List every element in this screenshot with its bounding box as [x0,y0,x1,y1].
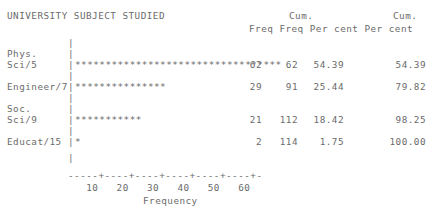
frequency-histogram-printout: UNIVERSITY SUBJECT STUDIED Cum. Cum. Fre… [0,0,435,210]
table-row-label-line1: Soc. | [0,103,435,114]
row-label-phys-sci: Sci/5 [7,59,37,70]
cell-per-cent: 18.42 [306,114,344,125]
row-label-engineer: Engineer/7 [7,81,68,92]
cell-cum-freq: 62 [272,59,298,70]
cell-per-cent: 1.75 [306,136,344,147]
axis-vertical-tick: | [68,125,74,136]
row-label-phys: Phys. [7,48,37,59]
column-header-cum-freq-top: Cum. [289,10,313,21]
bar-engineer: *************** [75,81,166,92]
table-row[interactable]: Sci/5 | ********************************… [0,59,435,70]
row-label-soc-sci: Sci/9 [7,114,37,125]
cell-per-cent: 54.39 [306,59,344,70]
axis-spacer-row: | [0,152,435,163]
axis-spacer-row: | [0,125,435,136]
cell-freq: 2 [236,136,262,147]
axis-vertical-tick: | [68,70,74,81]
row-label-soc: Soc. [7,103,31,114]
bar-soc-sci: *********** [75,114,142,125]
page-title: UNIVERSITY SUBJECT STUDIED [7,10,165,21]
axis-vertical-tick: | [68,136,74,147]
column-header-cum-per-cent-top: Cum. [393,10,417,21]
cell-freq: 29 [236,81,262,92]
cell-cum-per-cent: 100.00 [382,136,426,147]
axis-vertical-tick: | [68,59,74,70]
column-headers-row: Freq Freq Per cent Per cent [249,23,413,34]
cell-per-cent: 25.44 [306,81,344,92]
cell-cum-freq: 112 [272,114,298,125]
cell-freq: 62 [236,59,262,70]
x-axis-rule: -----+----+----+----+----+----+- [68,170,262,181]
cell-cum-per-cent: 98.25 [382,114,426,125]
axis-vertical-tick: | [68,37,74,48]
bar-educat: * [75,136,81,147]
cell-cum-freq: 114 [272,136,298,147]
axis-spacer-row: | [0,70,435,81]
cell-cum-per-cent: 54.39 [382,59,426,70]
axis-vertical-tick: | [68,152,74,163]
table-row[interactable]: Engineer/7 | *************** 29 91 25.44… [0,81,435,92]
axis-vertical-tick: | [68,48,74,59]
x-axis-title: Frequency [143,195,198,206]
axis-spacer-row: | [0,92,435,103]
table-row[interactable]: Sci/9 | *********** 21 112 18.42 98.25 [0,114,435,125]
cell-cum-per-cent: 79.82 [382,81,426,92]
cell-cum-freq: 91 [272,81,298,92]
table-row[interactable]: Educat/15 | * 2 114 1.75 100.00 [0,136,435,147]
cell-freq: 21 [236,114,262,125]
axis-vertical-tick: | [68,81,74,92]
table-row-label-line1: Phys. | [0,48,435,59]
axis-vertical-tick: | [68,103,74,114]
axis-vertical-tick: | [68,114,74,125]
row-label-educat: Educat/15 [7,136,62,147]
axis-spacer-row: | [0,37,435,48]
x-axis-tick-labels: 10 20 30 40 50 60 [68,182,250,193]
axis-vertical-tick: | [68,92,74,103]
